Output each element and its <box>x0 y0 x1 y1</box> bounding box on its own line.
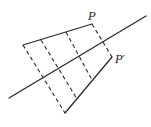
point-label-p-prime: P′ <box>114 53 125 66</box>
point-label-p: P <box>87 10 96 23</box>
perpendicular-line-4 <box>92 24 112 57</box>
perpendicular-line-2 <box>41 40 77 99</box>
reflection-diagram: P P′ <box>0 0 151 127</box>
original-edge <box>23 24 92 45</box>
reflected-edge <box>65 57 112 113</box>
perpendicular-line-1 <box>23 45 65 113</box>
